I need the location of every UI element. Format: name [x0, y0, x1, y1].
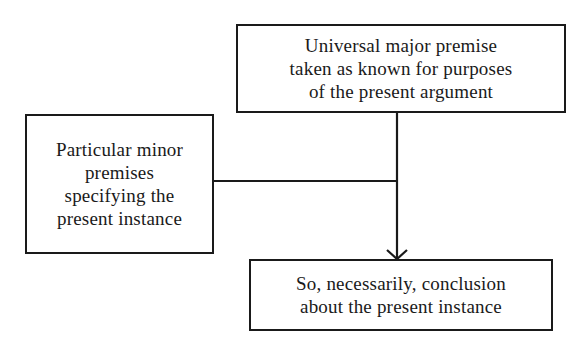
minor-premises-line-2: premises: [85, 161, 154, 184]
minor-premises-line-4: present instance: [57, 207, 182, 230]
conclusion-line-2: about the present instance: [300, 295, 502, 318]
conclusion-box: So, necessarily, conclusion about the pr…: [249, 259, 553, 331]
major-premise-line-3: of the present argument: [309, 80, 493, 103]
major-premise-box: Universal major premise taken as known f…: [236, 24, 566, 113]
minor-premises-line-1: Particular minor: [56, 138, 183, 161]
conclusion-line-1: So, necessarily, conclusion: [296, 272, 506, 295]
minor-premises-line-3: specifying the: [65, 184, 175, 207]
minor-premises-box: Particular minor premises specifying the…: [25, 114, 214, 254]
major-premise-line-1: Universal major premise: [305, 34, 497, 57]
major-premise-line-2: taken as known for purposes: [290, 57, 513, 80]
